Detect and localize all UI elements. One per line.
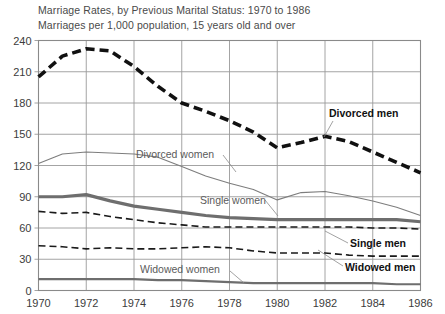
x-tick-label: 1976 xyxy=(170,297,194,309)
chart-container: Marriage Rates, by Previous Marital Stat… xyxy=(0,0,445,314)
y-axis-ticks: 0306090120150180210240 xyxy=(13,35,31,297)
x-tick-label: 1984 xyxy=(361,297,385,309)
y-tick-label: 30 xyxy=(19,253,31,265)
y-tick-label: 120 xyxy=(13,160,31,172)
annotation-leader-widowed-men xyxy=(318,250,343,266)
annotation-leader-single-men xyxy=(325,231,348,243)
x-tick-label: 1982 xyxy=(313,297,337,309)
x-tick-label: 1974 xyxy=(122,297,146,309)
y-tick-label: 90 xyxy=(19,191,31,203)
series-label-single-women: Single women xyxy=(200,194,266,206)
grid-lines xyxy=(35,41,421,291)
y-tick-label: 210 xyxy=(13,66,31,78)
y-tick-label: 240 xyxy=(13,35,31,47)
series-label-divorced-men: Divorced men xyxy=(329,107,398,119)
series-label-widowed-men: Widowed men xyxy=(345,261,416,273)
series-label-divorced-women: Divorced women xyxy=(136,148,214,160)
chart-plot: 0306090120150180210240 19701972197419761… xyxy=(0,0,445,314)
x-tick-label: 1978 xyxy=(217,297,241,309)
x-tick-label: 1972 xyxy=(74,297,98,309)
annotation-leader-single-women xyxy=(265,200,278,216)
series-label-widowed-women: Widowed women xyxy=(140,263,220,275)
y-tick-label: 0 xyxy=(25,285,31,297)
x-tick-label: 1986 xyxy=(408,297,432,309)
x-tick-label: 1970 xyxy=(26,297,50,309)
series-label-single-men: Single men xyxy=(350,237,406,249)
y-tick-label: 150 xyxy=(13,128,31,140)
x-axis-ticks: 197019721974197619781980198219841986 xyxy=(26,297,432,309)
y-tick-label: 180 xyxy=(13,97,31,109)
x-tick-label: 1980 xyxy=(265,297,289,309)
y-tick-label: 60 xyxy=(19,222,31,234)
